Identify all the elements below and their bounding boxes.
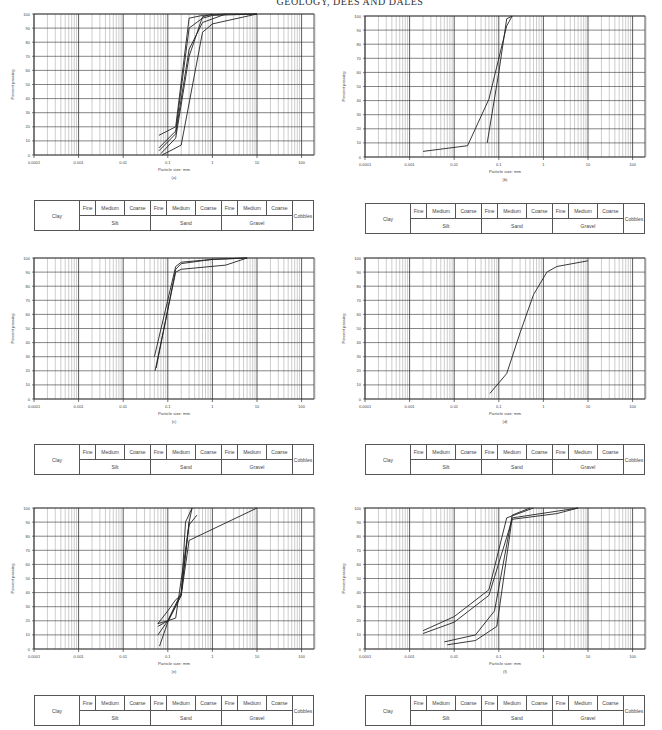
y-tick-label: 30 [26,604,31,609]
cobbles-cell: Cobbles [624,445,645,475]
cobbles-cell: Cobbles [293,696,314,726]
y-tick-label: 70 [357,56,362,61]
x-tick-label: 100 [629,654,636,659]
chart-caption: (d) [503,419,509,424]
classification-table-b: ClayFineMediumCoarseFineMediumCoarseFine… [365,203,645,234]
y-tick-label: 50 [26,326,31,331]
subdivision-cell: Coarse [266,445,292,460]
subdivision-cell: Coarse [124,445,150,460]
grading-curve [423,508,534,631]
cobbles-cell: Cobbles [624,204,645,234]
group-cell: Gravel [552,711,623,726]
y-tick-label: 90 [26,270,31,275]
x-tick-label: 1 [542,404,545,409]
group-cell: Silt [411,711,482,726]
subdivision-cell: Fine [552,445,568,460]
y-tick-label: 50 [26,82,31,87]
x-tick-label: 10 [255,404,260,409]
x-tick-label: 0.01 [119,654,128,659]
subdivision-cell: Fine [411,204,427,219]
subdivision-cell: Fine [221,445,237,460]
x-tick-label: 10 [586,162,591,167]
group-cell: Sand [481,460,552,475]
y-axis-label: Percent passing [10,313,15,344]
x-tick-label: 10 [255,160,260,165]
subdivision-cell: Fine [552,696,568,711]
y-tick-label: 0 [359,155,362,160]
y-tick-label: 80 [357,42,362,47]
y-tick-label: 0 [359,397,362,402]
y-tick-label: 50 [357,326,362,331]
classification-table-c: ClayFineMediumCoarseFineMediumCoarseFine… [34,444,314,475]
x-tick-label: 1 [211,404,214,409]
y-axis-label: Percent passing [341,563,346,594]
clay-cell: Clay [366,696,411,726]
subdivision-cell: Medium [569,204,598,219]
subdivision-cell: Fine [150,445,166,460]
x-tick-label: 1 [211,160,214,165]
subdivision-cell: Coarse [195,201,221,216]
subdivision-cell: Medium [498,696,527,711]
x-tick-label: 0.001 [405,162,416,167]
y-tick-label: 10 [357,382,362,387]
y-tick-label: 90 [357,28,362,33]
y-tick-label: 80 [357,534,362,539]
x-tick-label: 0.01 [450,404,459,409]
x-tick-label: 100 [298,404,305,409]
y-tick-label: 40 [26,590,31,595]
y-tick-label: 10 [357,140,362,145]
y-tick-label: 100 [354,14,361,19]
y-tick-label: 30 [357,354,362,359]
cobbles-cell: Cobbles [293,201,314,231]
chart-svg: 01020304050607080901000.00010.0010.010.1… [0,258,330,439]
chart-svg: 01020304050607080901000.00010.0010.010.1… [331,508,661,689]
y-tick-label: 90 [357,520,362,525]
x-tick-label: 10 [586,404,591,409]
y-tick-label: 100 [23,12,30,17]
x-tick-label: 0.01 [119,404,128,409]
subdivision-cell: Coarse [597,696,623,711]
subdivision-cell: Medium [427,696,456,711]
y-tick-label: 70 [26,54,31,59]
x-tick-label: 0.1 [165,654,171,659]
x-tick-label: 0.001 [74,654,85,659]
x-tick-label: 0.01 [450,162,459,167]
x-tick-label: 0.1 [165,160,171,165]
subdivision-cell: Medium [167,201,196,216]
clay-cell: Clay [366,204,411,234]
subdivision-cell: Coarse [124,696,150,711]
y-tick-label: 100 [23,506,30,511]
y-tick-label: 40 [26,96,31,101]
y-tick-label: 30 [357,112,362,117]
x-tick-label: 1 [542,654,545,659]
y-tick-label: 20 [26,368,31,373]
grading-curve [158,508,257,624]
y-tick-label: 70 [26,548,31,553]
chart-caption: (c) [172,419,177,424]
subdivision-cell: Medium [238,445,267,460]
subdivision-cell: Coarse [455,204,481,219]
x-tick-label: 0.1 [496,654,502,659]
subdivision-cell: Fine [150,201,166,216]
y-tick-label: 40 [357,98,362,103]
subdivision-cell: Coarse [195,696,221,711]
y-axis-label: Percent passing [341,313,346,344]
x-axis-label: Particle size: mm [158,411,190,416]
page-header: GEOLOGY, DEES AND DALES [230,0,470,7]
y-tick-label: 10 [26,138,31,143]
grading-curve [447,508,578,645]
grading-curve [444,508,530,642]
x-axis-label: Particle size: mm [489,661,521,666]
y-tick-label: 10 [26,632,31,637]
subdivision-cell: Medium [498,445,527,460]
y-tick-label: 80 [26,40,31,45]
y-tick-label: 20 [26,618,31,623]
group-cell: Gravel [221,460,292,475]
x-axis-label: Particle size: mm [158,661,190,666]
chart-caption: (b) [503,177,509,182]
subdivision-cell: Fine [80,201,96,216]
clay-cell: Clay [366,445,411,475]
x-axis-label: Particle size: mm [489,169,521,174]
x-tick-label: 0.001 [405,404,416,409]
subdivision-cell: Coarse [266,696,292,711]
